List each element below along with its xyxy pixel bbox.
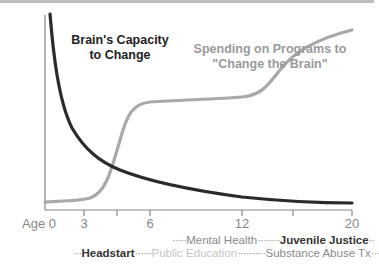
spending-label-line1: Spending on Programs to: [194, 42, 347, 56]
legend-juvenile-justice: Juvenile Justice: [280, 234, 369, 246]
legend-dots: ······: [135, 247, 152, 259]
x-tick-label-6: 6: [146, 216, 153, 231]
legend-dots: ··········: [237, 247, 265, 259]
spending-label-line2: "Change the Brain": [212, 57, 327, 71]
legend-substance-abuse: Substance Abuse Tx: [266, 247, 371, 259]
legend-public-education: Public Education: [152, 247, 238, 259]
legend-dots: ········: [257, 234, 280, 246]
x-tick-label-12: 12: [235, 216, 249, 231]
x-tick-label-3: 3: [80, 216, 87, 231]
x-tick-label-0: Age 0: [22, 216, 56, 231]
legend-dots: ·····: [172, 234, 186, 246]
x-tick-label-20: 20: [345, 216, 359, 231]
brain-label-line1: Brain's Capacity: [71, 33, 169, 47]
legend-dots: ···: [73, 247, 82, 259]
x-ticks: [84, 210, 352, 216]
legend-row-2: ···Headstart······Public Education······…: [73, 246, 379, 260]
brain-label-line2: to Change: [89, 48, 150, 62]
legend-dots: ··: [369, 234, 375, 246]
legend-headstart: Headstart: [82, 247, 135, 259]
legend-row-1: ·····Mental Health········Juvenile Justi…: [172, 233, 374, 247]
legend-dots: ···: [371, 247, 379, 259]
legend-mental-health: Mental Health: [186, 234, 257, 246]
